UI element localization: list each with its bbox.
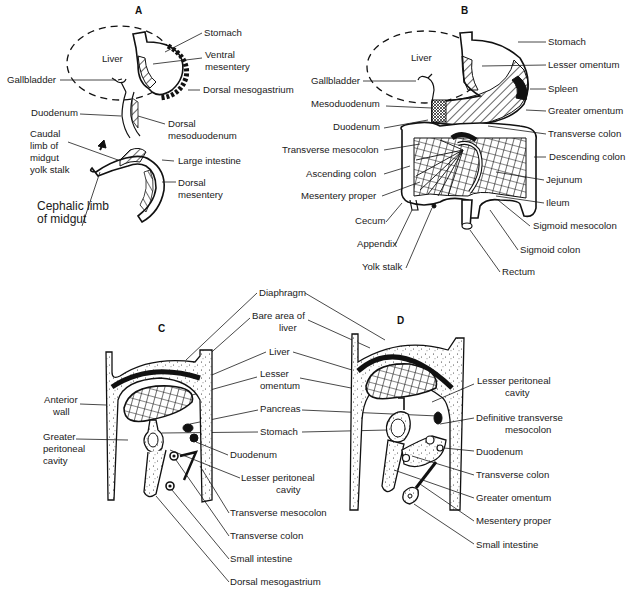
label-greater-peritoneal-cavity-c: Greater <box>43 431 76 442</box>
label-mesoduodenum-b: Mesoduodenum <box>311 98 380 109</box>
panel-b: B <box>282 5 625 277</box>
svg-text:liver: liver <box>279 322 297 333</box>
duodenum-d <box>437 445 443 451</box>
label-stomach-a: Stomach <box>204 27 242 38</box>
label-transverse-colon-c: Transverse colon <box>230 530 303 541</box>
label-dorsal-mesogastrium-a: Dorsal mesogastrium <box>203 84 294 95</box>
panel-c-letter: C <box>158 323 165 334</box>
label-definitive-transverse-mesocolon-d: Definitive transverse <box>476 412 563 423</box>
svg-text:omentum: omentum <box>260 380 300 391</box>
svg-text:of midgut: of midgut <box>37 212 87 226</box>
svg-text:yolk stalk: yolk stalk <box>30 164 70 175</box>
label-lesser-omentum-cd: Lesser <box>260 368 290 379</box>
anatomy-figure: A Liver Stomach Ventral mesentery G <box>0 0 639 598</box>
label-descending-colon-b: Descending colon <box>549 151 625 162</box>
label-greater-omentum-d: Greater omentum <box>476 492 551 503</box>
label-transverse-colon-d: Transverse colon <box>476 469 549 480</box>
label-ascending-colon-b: Ascending colon <box>306 168 376 179</box>
gallbladder-b <box>418 74 434 102</box>
svg-text:cavity: cavity <box>505 387 530 398</box>
label-transverse-mesocolon-b: Transverse mesocolon <box>282 144 379 155</box>
label-dorsal-mesoduodenum-a: Dorsal <box>168 118 196 129</box>
svg-text:limb of: limb of <box>30 140 59 151</box>
panel-c: C Anterior wall Greater peritoneal cavit… <box>43 323 327 587</box>
label-stomach-b: Stomach <box>548 36 586 47</box>
label-sigmoid-mesocolon-b: Sigmoid mesocolon <box>533 220 617 231</box>
label-cecum-b: Cecum <box>355 215 385 226</box>
definitive-transverse-mesocolon-d <box>426 436 434 444</box>
label-gallbladder-b: Gallbladder <box>311 75 361 86</box>
yolk-stalk-b <box>432 204 436 208</box>
pancreas-d <box>434 412 442 424</box>
greater-omentum-c <box>144 450 166 497</box>
label-ileum-b: Ileum <box>546 197 569 208</box>
label-appendix-b: Appendix <box>357 238 397 249</box>
label-stomach-cd: Stomach <box>260 426 298 437</box>
svg-text:cavity: cavity <box>276 484 301 495</box>
label-anterior-wall-c: Anterior <box>44 394 78 405</box>
label-spleen-b: Spleen <box>548 83 578 94</box>
mesentery-c <box>180 452 196 480</box>
panel-d-letter: D <box>397 315 404 326</box>
label-mesentery-proper-d: Mesentery proper <box>476 515 552 526</box>
label-jejunum-b: Jejunum <box>546 174 582 185</box>
pancreas-c <box>183 424 193 432</box>
transverse-colon-d <box>403 455 410 462</box>
label-mesentery-proper-b: Mesentery proper <box>301 190 377 201</box>
svg-text:mesentery: mesentery <box>205 61 250 72</box>
label-bare-area: Bare area of <box>252 310 305 321</box>
label-yolk-stalk-b: Yolk stalk <box>362 261 402 272</box>
label-caudal-limb-a: Caudal <box>30 128 60 139</box>
label-liver-a: Liver <box>102 53 124 64</box>
label-lesser-omentum-b: Lesser omentum <box>548 59 619 70</box>
label-duodenum-a: Duodenum <box>31 107 78 118</box>
label-large-intestine-a: Large intestine <box>178 155 241 166</box>
panel-b-letter: B <box>461 5 468 16</box>
svg-text:midgut: midgut <box>30 152 59 163</box>
label-dorsal-mesogastrium-c: Dorsal mesogastrium <box>230 576 321 587</box>
label-liver-cd: Liver <box>269 346 291 357</box>
label-duodenum-d: Duodenum <box>476 446 523 457</box>
label-gallbladder-a: Gallbladder <box>7 74 57 85</box>
label-duodenum-c: Duodenum <box>230 449 277 460</box>
label-transverse-mesocolon-c: Transverse mesocolon <box>230 507 327 518</box>
panel-a-letter: A <box>135 5 142 16</box>
label-pancreas-cd: Pancreas <box>260 403 301 414</box>
label-rectum-b: Rectum <box>502 266 535 277</box>
svg-text:mesocolon: mesocolon <box>505 424 551 435</box>
panel-a: A Liver Stomach Ventral mesentery G <box>7 5 294 226</box>
label-ventral-mesentery-a: Ventral <box>205 49 235 60</box>
greater-omentum-d <box>382 440 404 492</box>
svg-text:mesoduodenum: mesoduodenum <box>168 130 237 141</box>
label-duodenum-b: Duodenum <box>333 121 380 132</box>
mesoduodenum-b <box>432 100 446 122</box>
label-greater-omentum-b: Greater omentum <box>548 105 623 116</box>
svg-text:mesentery: mesentery <box>178 189 223 200</box>
panel-d: D Lesser peritoneal cavity Definitive tr… <box>350 315 563 550</box>
label-sigmoid-colon-b: Sigmoid colon <box>520 244 580 255</box>
svg-text:peritoneal: peritoneal <box>43 443 85 454</box>
svg-text:wall: wall <box>52 406 70 417</box>
label-lesser-peritoneal-cavity-c: Lesser peritoneal <box>241 472 315 483</box>
label-diaphragm: Diaphragm <box>259 287 306 298</box>
label-dorsal-mesentery-a: Dorsal <box>178 177 206 188</box>
label-liver-b: Liver <box>411 52 433 63</box>
label-small-intestine-d: Small intestine <box>476 539 538 550</box>
duodenum-c <box>190 434 198 442</box>
label-transverse-colon-b: Transverse colon <box>548 128 621 139</box>
svg-text:cavity: cavity <box>43 455 68 466</box>
label-lesser-peritoneal-cavity-d: Lesser peritoneal <box>477 375 551 386</box>
label-small-intestine-c: Small intestine <box>230 553 292 564</box>
liver-c <box>124 386 193 422</box>
label-cephalic-limb-a: Cephalic limb <box>37 199 109 213</box>
